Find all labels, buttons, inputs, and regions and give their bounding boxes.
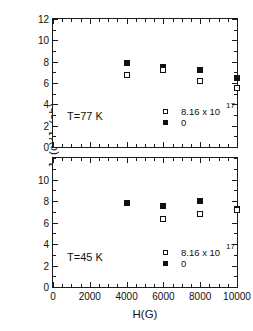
x-tick-major <box>163 282 164 287</box>
open-square-marker-icon <box>163 109 168 114</box>
x-tick-major-top <box>200 158 201 163</box>
data-point-filled <box>124 200 130 206</box>
x-tick-minor <box>219 144 220 147</box>
figure-container: Jc (c)/Jc (ab) 024681012 T=77 K 8.16 x 1… <box>0 0 253 331</box>
data-point-open <box>124 72 130 78</box>
x-tick-minor <box>173 284 174 287</box>
x-tick-minor-top <box>209 19 210 22</box>
x-tick-minor-top <box>99 158 100 161</box>
x-tick-major-top <box>163 158 164 163</box>
x-tick-major-top <box>53 19 54 24</box>
x-tick-minor <box>228 284 229 287</box>
x-tick-label: 10000 <box>223 291 251 302</box>
x-tick-label: 8000 <box>189 291 211 302</box>
x-tick-minor <box>209 144 210 147</box>
filled-square-marker-icon <box>163 261 168 266</box>
x-tick-major-top <box>90 158 91 163</box>
x-tick-major <box>200 142 201 147</box>
y-tick-minor <box>53 190 56 191</box>
x-tick-minor <box>145 144 146 147</box>
legend-label-open: 8.16 x 10 <box>181 247 220 258</box>
y-tick-major <box>53 104 58 105</box>
x-tick-major-top <box>163 19 164 24</box>
open-square-marker-icon <box>163 250 168 255</box>
y-tick-label: 4 <box>43 239 49 250</box>
y-tick-minor-right <box>234 276 237 277</box>
y-tick-minor <box>53 212 56 213</box>
x-tick-minor-top <box>62 19 63 22</box>
x-tick-minor-top <box>173 158 174 161</box>
y-tick-label: 6 <box>43 78 49 89</box>
data-point-open <box>160 67 166 73</box>
y-tick-label: 6 <box>43 217 49 228</box>
x-tick-minor <box>62 144 63 147</box>
x-tick-minor <box>81 284 82 287</box>
data-point-filled <box>124 60 130 66</box>
legend-label-open: 8.16 x 10 <box>181 106 220 117</box>
x-tick-major <box>90 142 91 147</box>
data-point-filled <box>197 67 203 73</box>
x-tick-minor <box>99 284 100 287</box>
x-tick-major-top <box>200 19 201 24</box>
x-tick-minor <box>136 284 137 287</box>
x-tick-minor-top <box>209 158 210 161</box>
data-point-filled <box>197 198 203 204</box>
x-tick-minor <box>173 144 174 147</box>
y-tick-major <box>53 180 58 181</box>
plot-area-top: 024681012 <box>53 19 237 147</box>
x-tick-minor <box>191 144 192 147</box>
y-tick-major-right <box>232 266 237 267</box>
x-tick-minor-top <box>182 158 183 161</box>
x-tick-minor-top <box>154 158 155 161</box>
x-tick-minor <box>71 144 72 147</box>
x-tick-major-top <box>127 19 128 24</box>
x-tick-major-top <box>90 19 91 24</box>
x-tick-minor-top <box>145 158 146 161</box>
y-tick-minor-right <box>234 255 237 256</box>
x-tick-major <box>53 142 54 147</box>
y-tick-major-right <box>232 147 237 148</box>
plot-area-bottom: 02468100200040006000800010000 <box>53 158 237 287</box>
x-tick-major-top <box>237 19 238 24</box>
y-tick-minor <box>53 169 56 170</box>
temperature-annotation-bottom: T=45 K <box>67 251 103 263</box>
y-tick-minor <box>53 72 56 73</box>
y-tick-label: 2 <box>43 120 49 131</box>
x-tick-major-top <box>53 158 54 163</box>
x-tick-label: 6000 <box>152 291 174 302</box>
x-tick-major <box>200 282 201 287</box>
y-tick-minor-right <box>234 94 237 95</box>
x-tick-minor <box>99 144 100 147</box>
x-tick-minor-top <box>173 19 174 22</box>
y-tick-minor-right <box>234 115 237 116</box>
y-tick-major-right <box>232 83 237 84</box>
y-tick-major-right <box>232 180 237 181</box>
y-tick-label: 10 <box>38 35 49 46</box>
y-tick-minor-right <box>234 190 237 191</box>
y-tick-label: 8 <box>43 196 49 207</box>
x-tick-minor-top <box>136 158 137 161</box>
x-tick-minor <box>117 144 118 147</box>
x-tick-minor-top <box>108 158 109 161</box>
y-tick-major <box>53 126 58 127</box>
y-tick-major <box>53 201 58 202</box>
x-tick-minor-top <box>191 19 192 22</box>
y-tick-major <box>53 223 58 224</box>
y-tick-minor <box>53 115 56 116</box>
data-point-filled <box>234 75 240 81</box>
x-tick-minor-top <box>108 19 109 22</box>
data-point-open <box>197 78 203 84</box>
x-tick-minor-top <box>71 158 72 161</box>
x-tick-minor <box>81 144 82 147</box>
y-tick-minor-right <box>234 72 237 73</box>
y-tick-minor <box>53 136 56 137</box>
y-tick-major-right <box>232 40 237 41</box>
y-tick-major <box>53 266 58 267</box>
y-tick-minor-right <box>234 233 237 234</box>
x-tick-major <box>53 282 54 287</box>
legend-exponent-open: 17 <box>226 100 235 111</box>
legend-label-filled: 0 <box>181 117 186 128</box>
x-tick-major <box>237 142 238 147</box>
x-tick-minor <box>154 284 155 287</box>
x-tick-minor <box>228 144 229 147</box>
